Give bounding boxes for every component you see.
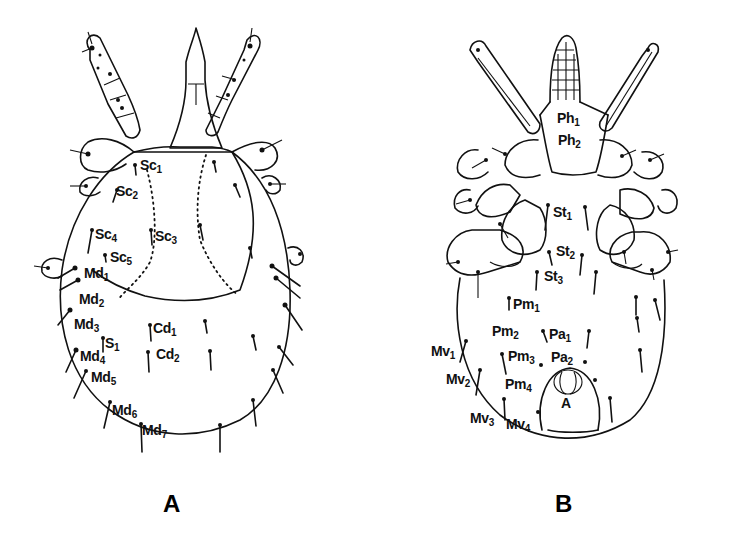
seta-index: 2 <box>465 378 470 389</box>
seta-label: Cd1 <box>153 321 176 338</box>
seta-label: Pm1 <box>513 297 539 314</box>
seta-name: Md <box>142 422 162 438</box>
seta-name: Pm <box>505 376 526 392</box>
seta-label: S1 <box>105 336 119 353</box>
seta-label: Md6 <box>112 403 137 420</box>
seta-index: 4 <box>112 233 117 244</box>
seta-index: 1 <box>450 350 455 361</box>
seta-index: 2 <box>568 356 573 367</box>
seta-index: 3 <box>529 355 534 366</box>
seta-index: 4 <box>100 355 105 366</box>
seta-name: St <box>556 243 569 259</box>
seta-index: 2 <box>513 330 518 341</box>
seta-label: Pm2 <box>492 324 518 341</box>
seta-label: Sc1 <box>140 158 162 175</box>
seta-index: 4 <box>526 383 531 394</box>
seta-label: Pa2 <box>551 350 573 367</box>
seta-label: Md7 <box>142 423 167 440</box>
seta-name: Sc <box>95 226 112 242</box>
seta-index: 4 <box>525 423 530 434</box>
seta-name: St <box>544 268 557 284</box>
seta-label: St3 <box>544 269 563 286</box>
seta-name: St <box>553 204 566 220</box>
seta-name: Mv <box>506 416 525 432</box>
seta-name: Cd <box>156 346 174 362</box>
seta-index: 5 <box>111 376 116 387</box>
seta-index: 1 <box>534 303 539 314</box>
seta-name: Sc <box>155 228 172 244</box>
mite-diagram <box>0 0 739 539</box>
seta-index: 1 <box>171 327 176 338</box>
seta-name: Md <box>112 402 132 418</box>
seta-index: 7 <box>162 429 167 440</box>
seta-label: Sc5 <box>110 250 132 267</box>
seta-name: Pm <box>492 323 513 339</box>
seta-name: Ph <box>557 110 574 126</box>
seta-label: Mv1 <box>431 344 455 361</box>
seta-label: Ph2 <box>558 133 581 150</box>
seta-index: 1 <box>566 211 571 222</box>
seta-name: Mv <box>470 410 489 426</box>
seta-name: Pa <box>549 326 566 342</box>
panel-label-a: A <box>163 490 180 518</box>
seta-name: Pm <box>513 296 534 312</box>
seta-index: 1 <box>114 342 119 353</box>
seta-label: Mv4 <box>506 417 530 434</box>
seta-index: 3 <box>94 323 99 334</box>
seta-name: Pa <box>551 349 568 365</box>
seta-label: Mv2 <box>446 372 470 389</box>
seta-index: 3 <box>489 417 494 428</box>
seta-index: 2 <box>99 298 104 309</box>
seta-name: Mv <box>431 343 450 359</box>
seta-index: 1 <box>104 272 109 283</box>
seta-name: Md <box>80 348 100 364</box>
seta-label: Md3 <box>74 317 99 334</box>
seta-label: Pm3 <box>508 349 534 366</box>
seta-index: 2 <box>133 190 138 201</box>
seta-index: 3 <box>172 235 177 246</box>
seta-label: Mv3 <box>470 411 494 428</box>
seta-label: Sc3 <box>155 229 177 246</box>
seta-label: Md2 <box>79 292 104 309</box>
seta-index: 2 <box>569 250 574 261</box>
seta-name: Cd <box>153 320 171 336</box>
seta-index: 5 <box>127 256 132 267</box>
seta-label: Pa1 <box>549 327 571 344</box>
seta-index: 6 <box>132 409 137 420</box>
seta-name: Mv <box>446 371 465 387</box>
seta-label: A <box>561 396 571 410</box>
seta-index: 3 <box>557 275 562 286</box>
seta-label: St2 <box>556 244 575 261</box>
seta-label: Sc4 <box>95 227 117 244</box>
seta-name: Md <box>79 291 99 307</box>
seta-index: 1 <box>157 164 162 175</box>
seta-index: 2 <box>575 139 580 150</box>
seta-index: 1 <box>566 333 571 344</box>
seta-name: Md <box>84 265 104 281</box>
seta-label: Pm4 <box>505 377 531 394</box>
seta-name: Sc <box>116 183 133 199</box>
seta-name: Md <box>91 369 111 385</box>
seta-name: A <box>561 395 571 411</box>
seta-label: Md1 <box>84 266 109 283</box>
seta-name: Pm <box>508 348 529 364</box>
seta-name: Sc <box>140 157 157 173</box>
seta-label: Ph1 <box>557 111 580 128</box>
seta-label: Md4 <box>80 349 105 366</box>
seta-name: Md <box>74 316 94 332</box>
seta-label: Md5 <box>91 370 116 387</box>
seta-label: Sc2 <box>116 184 138 201</box>
seta-index: 2 <box>174 353 179 364</box>
ventral-view-drawing <box>446 36 678 439</box>
panel-label-b: B <box>555 490 572 518</box>
seta-name: Ph <box>558 132 575 148</box>
seta-name: Sc <box>110 249 127 265</box>
seta-label: St1 <box>553 205 572 222</box>
seta-name: S <box>105 335 114 351</box>
seta-index: 1 <box>574 117 579 128</box>
seta-label: Cd2 <box>156 347 179 364</box>
